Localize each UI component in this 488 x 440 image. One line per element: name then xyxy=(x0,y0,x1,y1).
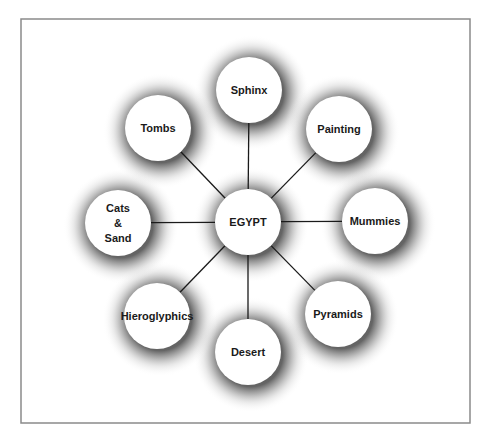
node-cats-and-sand: Cats&Sand xyxy=(85,190,151,256)
node-sphinx: Sphinx xyxy=(216,57,282,123)
hieroglyphics-label: Hieroglyphics xyxy=(121,310,194,322)
node-desert: Desert xyxy=(215,319,281,385)
concept-diagram: EGYPTSphinxPaintingMummiesPyramidsDesert… xyxy=(0,0,488,440)
desert-label: Desert xyxy=(231,346,266,358)
painting-label: Painting xyxy=(317,123,360,135)
node-egypt: EGYPT xyxy=(215,189,281,255)
cats-and-sand-label: Cats xyxy=(106,202,130,214)
mummies-label: Mummies xyxy=(350,215,401,227)
cats-and-sand-label: & xyxy=(114,217,122,229)
cats-and-sand-label: Sand xyxy=(105,232,132,244)
node-mummies: Mummies xyxy=(342,188,408,254)
egypt-label: EGYPT xyxy=(229,216,267,228)
node-tombs: Tombs xyxy=(125,95,191,161)
pyramids-label: Pyramids xyxy=(313,308,363,320)
node-painting: Painting xyxy=(306,96,372,162)
nodes: EGYPTSphinxPaintingMummiesPyramidsDesert… xyxy=(85,57,408,385)
sphinx-label: Sphinx xyxy=(231,84,269,96)
tombs-label: Tombs xyxy=(140,122,175,134)
connector-sphinx xyxy=(248,123,249,189)
node-pyramids: Pyramids xyxy=(305,281,371,347)
